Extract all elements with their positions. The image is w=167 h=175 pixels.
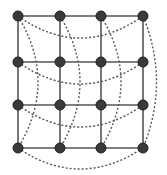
node-r1-c0	[13, 57, 23, 67]
node-r0-c0	[13, 11, 23, 21]
node-r3-c2	[96, 143, 106, 153]
node-r0-c2	[96, 11, 106, 21]
vertical-wrap-edge-col-2	[101, 16, 121, 148]
vertical-wrap-edge-col-0	[18, 16, 38, 148]
node-r2-c2	[96, 100, 106, 110]
node-r3-c1	[55, 143, 65, 153]
node-r1-c3	[138, 57, 148, 67]
node-r2-c3	[138, 100, 148, 110]
node-r3-c0	[13, 143, 23, 153]
node-r3-c3	[138, 143, 148, 153]
node-r2-c1	[55, 100, 65, 110]
horizontal-wrap-edge-row-0	[18, 16, 143, 38]
node-r1-c1	[55, 57, 65, 67]
node-r0-c1	[55, 11, 65, 21]
node-r0-c3	[138, 11, 148, 21]
torus-grid-diagram	[0, 0, 167, 175]
wraparound-edges	[18, 16, 157, 169]
vertical-wrap-edge-col-3	[143, 16, 157, 148]
node-r2-c0	[13, 100, 23, 110]
horizontal-wrap-edge-row-2	[18, 105, 143, 127]
horizontal-wrap-edge-row-3	[18, 148, 143, 169]
node-r1-c2	[96, 57, 106, 67]
